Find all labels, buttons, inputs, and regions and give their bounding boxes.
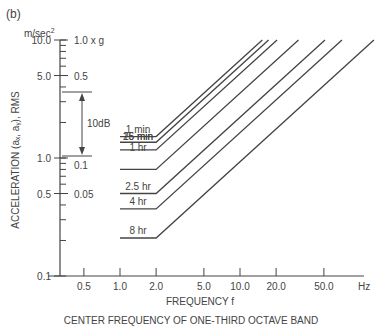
svg-text:0.1: 0.1	[37, 271, 51, 282]
panel-label: (b)	[6, 7, 21, 21]
svg-text:10.0: 10.0	[32, 35, 52, 46]
svg-text:0.5: 0.5	[74, 71, 88, 82]
svg-text:5.0: 5.0	[197, 281, 211, 292]
svg-text:50.0: 50.0	[314, 281, 334, 292]
svg-text:0.5: 0.5	[37, 189, 51, 200]
series-label: 25 min	[123, 131, 153, 142]
svg-text:5.0: 5.0	[37, 71, 51, 82]
x-axis-label: FREQUENCY f	[166, 296, 234, 307]
svg-text:1.0: 1.0	[113, 281, 127, 292]
svg-text:2.0: 2.0	[149, 281, 163, 292]
svg-text:0.5: 0.5	[77, 281, 91, 292]
series-line	[120, 40, 342, 209]
x-ticks: 0.51.02.05.010.020.050.0	[77, 268, 334, 292]
y-ticks: 0.10.51.05.010.01.0 x g0.50.10.05	[32, 35, 105, 282]
svg-text:20.0: 20.0	[266, 281, 286, 292]
10db-annotation: 10dB	[62, 92, 111, 156]
series-label: 4 hr	[129, 196, 147, 207]
svg-text:0.05: 0.05	[74, 189, 94, 200]
svg-text:1.0 x g: 1.0 x g	[74, 35, 104, 46]
svg-text:0.1: 0.1	[74, 160, 88, 171]
caption: CENTER FREQUENCY OF ONE-THIRD OCTAVE BAN…	[64, 315, 318, 326]
svg-text:1.0: 1.0	[37, 153, 51, 164]
series-line	[120, 40, 374, 238]
series-lines: 1 min16 min25 min1 hr2.5 hr4 hr8 hr	[120, 40, 374, 238]
x-unit: Hz	[358, 281, 370, 292]
svg-text:10.0: 10.0	[230, 281, 250, 292]
y-axis-label: ACCELERATION (aₓ, aᵧ), RMS	[10, 91, 21, 229]
series-label: 8 hr	[129, 225, 147, 236]
series-line	[120, 40, 325, 194]
series-label: 2.5 hr	[125, 181, 151, 192]
chart: (b) m/sec2 0.10.51.05.010.01.0 x g0.50.1…	[0, 0, 382, 328]
svg-text:10dB: 10dB	[87, 118, 111, 129]
series-label: 1 hr	[129, 142, 147, 153]
series-line	[120, 40, 262, 137]
